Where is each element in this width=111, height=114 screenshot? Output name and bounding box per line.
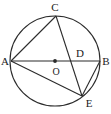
segment-a-c [11, 16, 56, 61]
vertex-label-b: B [102, 55, 109, 67]
geometry-figure: A B C D E O [0, 0, 111, 114]
vertex-label-c: C [51, 1, 58, 13]
segment-b-e [82, 61, 100, 96]
center-point-o-dot [53, 59, 57, 63]
center-label-o: O [52, 66, 59, 77]
vertex-label-d: D [76, 47, 84, 59]
vertex-label-e: E [86, 97, 93, 109]
vertex-label-a: A [1, 55, 9, 67]
geometry-canvas: A B C D E O [0, 0, 111, 114]
